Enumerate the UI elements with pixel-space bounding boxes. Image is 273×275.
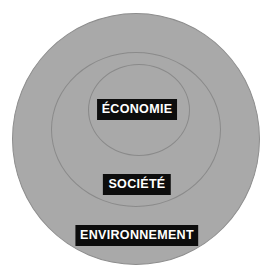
diagram-canvas: ÉCONOMIE SOCIÉTÉ ENVIRONNEMENT <box>0 0 273 275</box>
label-societe: SOCIÉTÉ <box>102 174 170 195</box>
label-environnement: ENVIRONNEMENT <box>75 225 198 246</box>
label-economie: ÉCONOMIE <box>97 99 177 120</box>
